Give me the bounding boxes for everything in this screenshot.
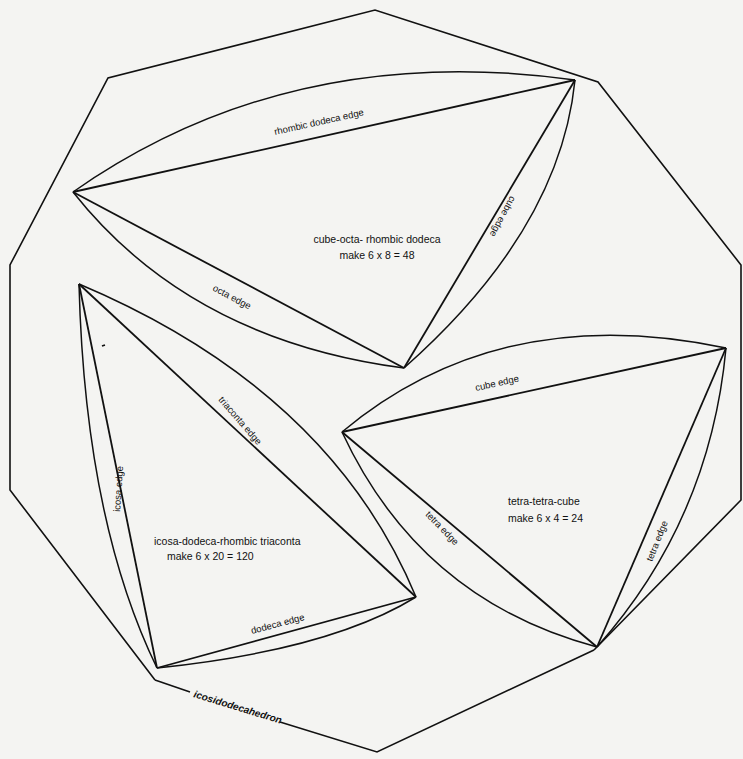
piece-make-count: make 6 x 20 = 120 bbox=[167, 550, 254, 562]
outline-label-icosidodecahedron: icosidodecahedron bbox=[192, 688, 283, 725]
edge-label-octa: octa edge bbox=[211, 282, 253, 311]
outer-decagon-outline bbox=[10, 10, 741, 752]
piece-title: cube-octa- rhombic dodeca bbox=[313, 233, 440, 245]
edge-label-tetra-right: tetra edge bbox=[644, 519, 670, 563]
piece-make-count: make 6 x 8 = 48 bbox=[339, 249, 414, 261]
edge-label-dodeca: dodeca edge bbox=[250, 611, 306, 636]
piece-title: tetra-tetra-cube bbox=[508, 495, 580, 507]
piece-make-count: make 6 x 4 = 24 bbox=[508, 512, 583, 524]
piece-title: icosa-dodeca-rhombic triaconta bbox=[154, 535, 301, 547]
small-tick-mark bbox=[102, 345, 105, 346]
edge-label-cube: cube edge bbox=[474, 373, 520, 393]
edge-label-triaconta: triaconta edge bbox=[216, 394, 264, 447]
diagram-canvas: icosidodecahedron rhombic dodeca edge cu… bbox=[0, 0, 743, 759]
piece-tetra-tetra-cube: cube edge tetra edge tetra edge tetra-te… bbox=[342, 335, 726, 647]
edge-label-rhombic-dodeca: rhombic dodeca edge bbox=[273, 106, 365, 137]
piece-cube-octa-rhombic-dodeca: rhombic dodeca edge cube edge octa edge … bbox=[73, 72, 575, 368]
